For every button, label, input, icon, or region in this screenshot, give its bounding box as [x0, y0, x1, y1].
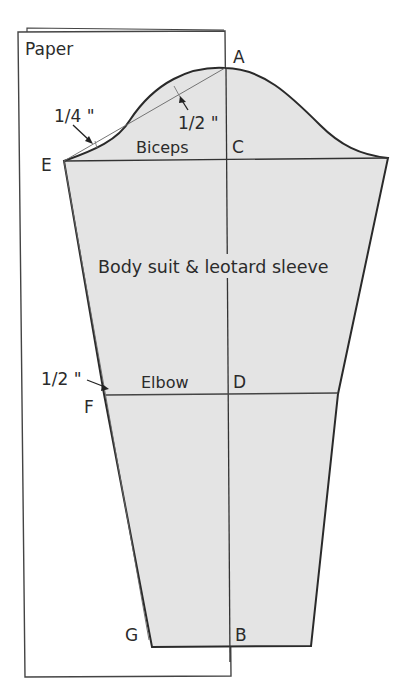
measurement-cap-lower: 1/4 " — [54, 106, 95, 126]
biceps-label: Biceps — [136, 138, 189, 157]
elbow-label: Elbow — [141, 373, 189, 392]
paper-label: Paper — [25, 39, 73, 59]
point-d-label: D — [233, 372, 246, 392]
point-c-label: C — [232, 137, 244, 157]
pattern-title: Body suit & leotard sleeve — [98, 257, 329, 277]
point-f-label: F — [84, 397, 94, 417]
sleeve-pattern-diagram: Paper A C E D F G B Biceps Elbow 1/2 " 1… — [0, 0, 403, 686]
point-b-label: B — [235, 625, 247, 645]
measurement-cap-upper: 1/2 " — [178, 113, 219, 133]
point-e-label: E — [41, 155, 52, 175]
measurement-elbow-offset: 1/2 " — [41, 369, 82, 389]
point-a-label: A — [233, 47, 245, 67]
point-g-label: G — [125, 625, 138, 645]
